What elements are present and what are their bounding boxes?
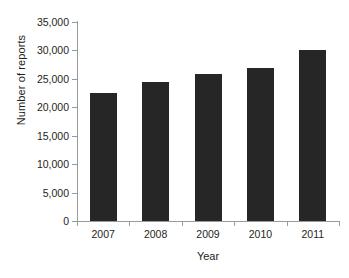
x-axis-title: Year: [77, 250, 339, 262]
y-tick-mark: [72, 107, 77, 108]
x-tick-label-2010: 2010: [249, 228, 272, 240]
x-tick-label-2011: 2011: [302, 228, 325, 240]
y-tick-label: 25,000: [37, 73, 69, 85]
y-tick-label: 5,000: [43, 187, 69, 199]
x-tick-mark: [77, 221, 78, 226]
x-tick-label-2009: 2009: [196, 228, 219, 240]
bar-2009: [195, 74, 222, 221]
x-tick-label-2007: 2007: [92, 228, 115, 240]
y-tick-label: 30,000: [37, 44, 69, 56]
x-tick-mark: [339, 221, 340, 226]
plot-area: 05,00010,00015,00020,00025,00030,00035,0…: [77, 22, 339, 221]
x-tick-mark: [182, 221, 183, 226]
y-tick-mark: [72, 79, 77, 80]
bar-2011: [299, 50, 326, 221]
x-tick-mark: [287, 221, 288, 226]
y-tick-label: 35,000: [37, 16, 69, 28]
y-axis-title: Number of reports: [15, 20, 27, 140]
x-tick-mark: [129, 221, 130, 226]
y-tick-mark: [72, 164, 77, 165]
x-tick-label-2008: 2008: [144, 228, 167, 240]
y-tick-label: 0: [63, 215, 69, 227]
y-tick-mark: [72, 50, 77, 51]
bar-2010: [247, 68, 274, 222]
bar-chart-figure: Number of reports 05,00010,00015,00020,0…: [0, 0, 349, 278]
y-tick-label: 10,000: [37, 158, 69, 170]
y-tick-mark: [72, 22, 77, 23]
bar-2007: [90, 93, 117, 221]
x-axis-line: [77, 221, 339, 222]
y-tick-mark: [72, 193, 77, 194]
bar-2008: [142, 82, 169, 221]
y-tick-mark: [72, 136, 77, 137]
y-tick-label: 15,000: [37, 130, 69, 142]
y-tick-label: 20,000: [37, 101, 69, 113]
x-tick-mark: [234, 221, 235, 226]
